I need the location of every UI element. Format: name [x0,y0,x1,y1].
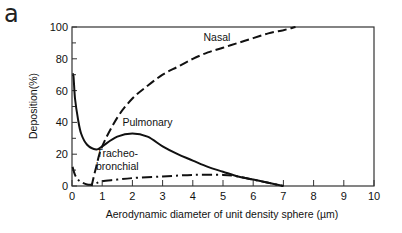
x-tick-label: 0 [69,190,75,202]
y-tick-label: 60 [56,85,68,97]
x-tick-label: 1 [99,190,105,202]
x-tick-label: 2 [129,190,135,202]
curve-label: Pulmonary [122,116,173,128]
x-tick-label: 10 [368,190,380,202]
x-axis-ticks: 012345678910 [69,180,380,202]
curve-label: bronchial [96,160,139,172]
x-tick-label: 4 [190,190,196,202]
x-tick-label: 5 [220,190,226,202]
x-tick-label: 6 [250,190,256,202]
y-axis-label: Deposition(%) [27,73,39,139]
x-tick-label: 3 [160,190,166,202]
x-tick-label: 8 [311,190,317,202]
deposition-chart: 020406080100 012345678910 NasalPulmonary… [0,0,402,233]
y-tick-label: 80 [56,53,68,65]
y-tick-label: 20 [56,148,68,160]
y-tick-label: 0 [62,180,68,192]
curve-label: Tracheo- [96,147,138,159]
x-tick-label: 9 [341,190,347,202]
y-tick-label: 40 [56,116,68,128]
curve-label: Nasal [204,31,231,43]
x-axis-label: Aerodynamic diameter of unit density sph… [106,208,338,220]
y-axis-ticks: 020406080100 [50,21,77,192]
x-tick-label: 7 [280,190,286,202]
y-tick-label: 100 [50,21,68,33]
